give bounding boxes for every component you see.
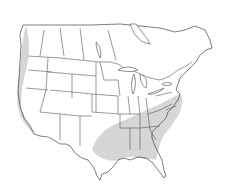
range-southeast	[92, 94, 182, 161]
lake-michigan	[132, 74, 136, 94]
map-svg	[0, 0, 237, 193]
lake-ontario	[162, 83, 172, 86]
range-map	[0, 0, 237, 193]
lake-winnipeg	[96, 42, 101, 58]
lake-erie	[148, 88, 164, 94]
range-pacific-coast	[17, 26, 36, 134]
us-canada-border	[28, 56, 192, 80]
lake-superior	[118, 67, 138, 72]
